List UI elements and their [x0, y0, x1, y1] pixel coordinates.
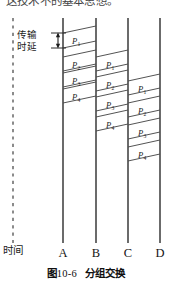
packet-label-cd-1: P1: [138, 85, 146, 94]
caption-prefix: 图: [47, 267, 57, 279]
packet-letter: P: [72, 36, 77, 46]
packet-letter: P: [106, 60, 111, 70]
transmission-delay-label-line1: 传输: [17, 29, 51, 41]
packet-index: 1: [144, 89, 147, 95]
time-axis-label: 时间: [3, 245, 23, 256]
packet-index: 2: [144, 111, 147, 117]
packet-index: 3: [78, 81, 81, 87]
packet-switching-figure: 这技术不的基本思想。: [0, 0, 172, 283]
packet-index: 2: [78, 65, 81, 71]
packet-label-ab-2: P2: [72, 61, 80, 70]
packet-index: 4: [78, 97, 81, 103]
transmission-delay-label-line2: 时延: [17, 41, 51, 53]
node-label-a: A: [54, 246, 72, 261]
packet-label-ab-4: P4: [72, 93, 80, 102]
caption-number: 10-6: [57, 268, 77, 279]
packet-index: 2: [112, 85, 115, 91]
packet-label-bc-4: P4: [106, 121, 114, 130]
packet-index: 3: [144, 133, 147, 139]
packet-label-bc-3: P3: [106, 101, 114, 110]
packet-label-bc-2: P2: [106, 81, 114, 90]
packet-label-cd-2: P2: [138, 107, 146, 116]
packet-label-ab-3: P3: [72, 77, 80, 86]
packet-label-bc-1: P1: [106, 61, 114, 70]
caption-title: 分组交换: [85, 267, 126, 279]
figure-caption: 图10-6 分组交换: [0, 265, 172, 280]
packet-label-cd-3: P3: [138, 129, 146, 138]
packet-letter: P: [72, 92, 77, 102]
packet-letter: P: [106, 80, 111, 90]
packet-letter: P: [138, 84, 143, 94]
packet-index: 4: [112, 125, 115, 131]
node-label-d: D: [151, 246, 169, 261]
packet-label-cd-4: P4: [138, 151, 146, 160]
packet-letter: P: [138, 150, 143, 160]
packet-index: 4: [144, 155, 147, 161]
node-label-c: C: [119, 246, 137, 261]
packet-letter: P: [72, 76, 77, 86]
packet-letter: P: [106, 100, 111, 110]
packet-label-ab-1: P1: [72, 37, 80, 46]
packet-index: 3: [112, 105, 115, 111]
packet-letter: P: [72, 60, 77, 70]
packet-letter: P: [106, 120, 111, 130]
transmission-delay-label: 传输 时延: [17, 29, 51, 52]
packet-index: 1: [112, 65, 115, 71]
packet-letter: P: [138, 128, 143, 138]
packet-letter: P: [138, 106, 143, 116]
packet-index: 1: [78, 41, 81, 47]
node-label-b: B: [87, 246, 105, 261]
